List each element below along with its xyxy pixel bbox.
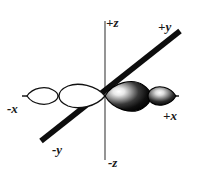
axis-label-negative-x: -x	[7, 102, 18, 115]
lobe-outer-negative-x	[27, 88, 58, 104]
y-axis-line	[41, 31, 180, 141]
axis-label-negative-y: -y	[52, 143, 62, 156]
axis-label-positive-y: +y	[158, 20, 171, 33]
axis-label-positive-x: +x	[163, 109, 177, 122]
orbital-diagram: +z -z +y -y -x +x	[0, 0, 198, 182]
axis-label-positive-z: +z	[106, 16, 118, 29]
lobe-inner-negative-x	[59, 84, 105, 107]
lobe-outer-positive-x	[148, 87, 176, 105]
axis-label-negative-z: -z	[108, 156, 117, 169]
